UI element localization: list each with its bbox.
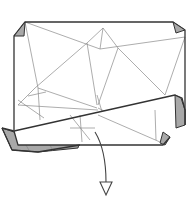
folded-corner-top-left bbox=[14, 22, 25, 36]
origami-diagram bbox=[0, 0, 189, 209]
